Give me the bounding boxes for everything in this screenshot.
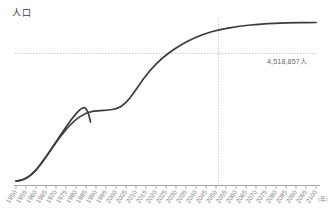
x-axis-unit-label: (年) <box>318 195 328 203</box>
chart-plot-area: 1950195519601965197019751980198519901995… <box>0 0 330 223</box>
value-annotation-label: 4,518,857人 <box>267 56 307 66</box>
population-line-main <box>16 23 316 182</box>
x-axis-ticks <box>16 186 316 190</box>
population-line <box>16 108 91 182</box>
reference-guides <box>15 18 318 185</box>
population-chart: 人口 1950195519601965197019751980198519901… <box>0 0 330 223</box>
x-axis-tick-label: 2100 <box>304 188 318 204</box>
x-axis-tick-labels: 1950195519601965197019751980198519901995… <box>4 188 318 204</box>
